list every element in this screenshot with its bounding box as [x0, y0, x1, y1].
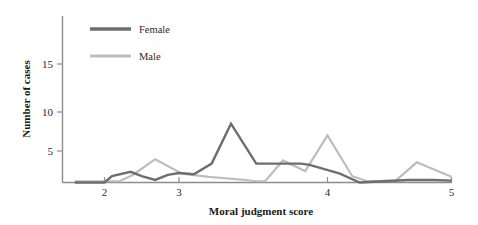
x-tick-label-2: 2 [102, 186, 108, 198]
chart-figure: 5 10 15 2 3 4 5 Moral judgment score Num… [0, 0, 478, 225]
x-tick-label-3: 3 [176, 186, 182, 198]
x-axis-title: Moral judgment score [209, 205, 313, 217]
y-tick-label-10: 10 [42, 106, 54, 118]
x-tick-label-4: 4 [325, 186, 331, 198]
legend-label-male: Male [139, 51, 161, 62]
y-axis-title: Number of cases [20, 60, 32, 138]
x-tick-label-5: 5 [449, 186, 455, 198]
legend-label-female: Female [139, 24, 170, 35]
y-tick-label-15: 15 [42, 58, 54, 70]
chart-background [0, 0, 478, 225]
y-tick-label-5: 5 [48, 145, 54, 157]
line-chart: 5 10 15 2 3 4 5 Moral judgment score Num… [0, 0, 478, 225]
